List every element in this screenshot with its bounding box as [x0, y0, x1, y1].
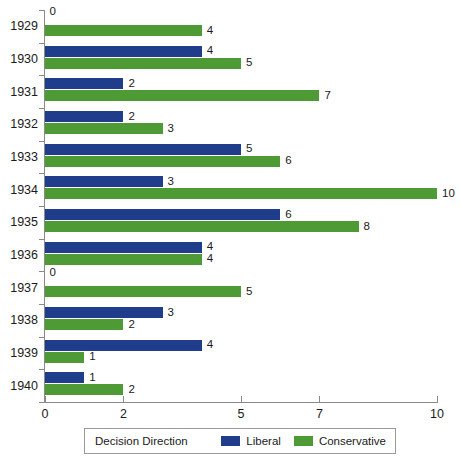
y-tick	[39, 369, 45, 370]
bar-conservative-1929: 4	[45, 25, 202, 36]
bar-value-label: 1	[89, 351, 95, 363]
bar-value-label: 5	[246, 143, 252, 155]
bar-value-label: 4	[207, 241, 213, 253]
bar-fill	[45, 90, 319, 101]
y-tick	[39, 337, 45, 338]
y-axis-label-1938: 1938	[0, 314, 38, 327]
bar-conservative-1933: 6	[45, 156, 280, 167]
bar-group-1938: 32	[45, 304, 437, 337]
x-tick-label: 2	[120, 408, 127, 421]
bar-fill	[45, 46, 202, 57]
y-axis-label-1935: 1935	[0, 216, 38, 229]
y-axis-label-1939: 1939	[0, 347, 38, 360]
y-tick	[39, 108, 45, 109]
bar-conservative-1935: 8	[45, 221, 359, 232]
y-tick	[39, 173, 45, 174]
legend-entry-conservative[interactable]: Conservative	[294, 435, 386, 447]
bar-conservative-1932: 3	[45, 123, 163, 134]
legend-title: Decision Direction	[85, 435, 188, 447]
bar-value-label: 4	[207, 45, 213, 57]
bar-value-label: 1	[89, 372, 95, 384]
y-axis-label-1940: 1940	[0, 380, 38, 393]
bar-value-label: 0	[50, 5, 56, 17]
bar-value-label: 6	[285, 155, 291, 167]
legend-entries: LiberalConservative	[221, 435, 395, 447]
x-tick-label: 5	[238, 408, 245, 421]
bar-group-1933: 56	[45, 141, 437, 174]
bar-value-label: 4	[207, 25, 213, 37]
bar-liberal-1938: 3	[45, 307, 163, 318]
bar-group-1931: 27	[45, 75, 437, 108]
bar-value-label: 0	[50, 267, 56, 279]
bar-fill	[45, 242, 202, 253]
bar-fill	[45, 123, 163, 134]
bar-conservative-1940: 2	[45, 384, 123, 395]
bar-fill	[45, 372, 84, 383]
x-tick	[123, 396, 124, 403]
y-tick	[39, 10, 45, 11]
x-tick	[319, 396, 320, 403]
bar-fill	[45, 111, 123, 122]
bar-value-label: 2	[128, 111, 134, 123]
bar-group-1929: 04	[45, 10, 437, 43]
bar-fill	[45, 307, 163, 318]
bar-value-label: 4	[207, 253, 213, 265]
bar-conservative-1931: 7	[45, 90, 319, 101]
legend: Decision Direction LiberalConservative	[84, 428, 396, 454]
bar-value-label: 2	[128, 78, 134, 90]
bar-value-label: 2	[128, 384, 134, 396]
bar-liberal-1939: 4	[45, 340, 202, 351]
x-tick-label: 7	[316, 408, 323, 421]
bar-conservative-1930: 5	[45, 58, 241, 69]
bar-value-label: 4	[207, 339, 213, 351]
y-tick	[39, 304, 45, 305]
bar-value-label: 10	[442, 188, 455, 200]
x-tick-label: 10	[430, 408, 444, 421]
bar-value-label: 3	[168, 307, 174, 319]
y-tick	[39, 141, 45, 142]
bar-fill	[45, 340, 202, 351]
legend-entry-liberal[interactable]: Liberal	[221, 435, 281, 447]
bar-fill	[45, 254, 202, 265]
y-axis-label-1936: 1936	[0, 249, 38, 262]
bar-liberal-1933: 5	[45, 144, 241, 155]
bar-fill	[45, 384, 123, 395]
bar-fill	[45, 144, 241, 155]
y-axis-label-1931: 1931	[0, 86, 38, 99]
bar-value-label: 8	[364, 221, 370, 233]
bar-group-1930: 45	[45, 43, 437, 76]
bar-liberal-1937: 0	[45, 274, 46, 285]
legend-label: Conservative	[319, 435, 386, 447]
bar-value-label: 3	[168, 123, 174, 135]
x-tick	[45, 396, 46, 403]
bar-fill	[45, 156, 280, 167]
bar-fill	[45, 319, 123, 330]
bar-liberal-1940: 1	[45, 372, 84, 383]
x-tick-label: 0	[42, 408, 49, 421]
bar-fill	[45, 176, 163, 187]
y-axis-label-1929: 1929	[0, 20, 38, 33]
bar-fill	[45, 286, 241, 297]
bar-fill	[45, 221, 359, 232]
bar-value-label: 6	[285, 209, 291, 221]
y-axis-label-1930: 1930	[0, 53, 38, 66]
bar-conservative-1938: 2	[45, 319, 123, 330]
bar-value-label: 5	[246, 57, 252, 69]
bar-liberal-1934: 3	[45, 176, 163, 187]
bar-group-1937: 05	[45, 271, 437, 304]
y-axis-label-1932: 1932	[0, 118, 38, 131]
bar-conservative-1939: 1	[45, 352, 84, 363]
bar-conservative-1934: 10	[45, 188, 437, 199]
y-tick	[39, 206, 45, 207]
bar-chart: 0445272356310684405324112 19291930193119…	[0, 0, 460, 462]
bar-group-1934: 310	[45, 173, 437, 206]
bar-fill	[45, 25, 202, 36]
bar-group-1936: 44	[45, 239, 437, 272]
bar-value-label: 7	[324, 90, 330, 102]
y-tick	[39, 271, 45, 272]
bar-liberal-1936: 4	[45, 242, 202, 253]
y-tick	[39, 43, 45, 44]
bar-liberal-1929: 0	[45, 13, 46, 24]
bar-group-1932: 23	[45, 108, 437, 141]
legend-swatch-icon	[294, 436, 313, 446]
